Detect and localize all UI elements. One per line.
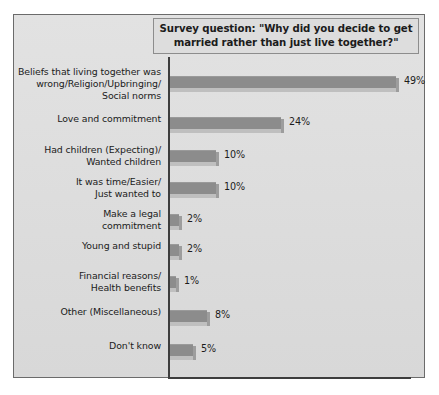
bar — [170, 76, 396, 93]
bar — [170, 244, 179, 261]
bar — [170, 310, 207, 327]
category-label: Had children (Expecting)/ Wanted childre… — [16, 144, 161, 168]
bar — [170, 117, 281, 134]
bar-value-label: 2% — [187, 243, 202, 254]
bar — [170, 150, 216, 167]
bar — [170, 344, 193, 361]
bar-shelf — [170, 88, 396, 92]
bar-body — [170, 117, 281, 129]
x-axis-line — [168, 377, 411, 379]
bar-end-cap — [216, 184, 219, 198]
bar-body — [170, 76, 396, 88]
bar-shelf — [170, 256, 179, 260]
bar-end-cap — [179, 216, 182, 230]
bar — [170, 276, 176, 293]
bar-shelf — [170, 162, 216, 166]
category-label: Other (Miscellaneous) — [16, 306, 161, 318]
bar-shelf — [170, 194, 216, 198]
bar-body — [170, 244, 179, 256]
bar-value-label: 24% — [289, 116, 310, 127]
category-label: Don't know — [16, 340, 161, 352]
category-label: Financial reasons/ Health benefits — [16, 270, 161, 294]
bar-end-cap — [207, 312, 210, 326]
chart-frame: Survey question: "Why did you decide to … — [13, 14, 425, 378]
bar-end-cap — [176, 278, 179, 292]
bar-value-label: 49% — [404, 75, 425, 86]
bar-body — [170, 150, 216, 162]
bar-shelf — [170, 356, 193, 360]
bar-value-label: 5% — [201, 343, 216, 354]
bar — [170, 214, 179, 231]
bar-end-cap — [216, 152, 219, 166]
bar-body — [170, 310, 207, 322]
bar-body — [170, 344, 193, 356]
category-label: Beliefs that living together was wrong/R… — [16, 66, 161, 102]
bar-end-cap — [179, 246, 182, 260]
bar-shelf — [170, 322, 207, 326]
bar-value-label: 10% — [224, 149, 245, 160]
bar — [170, 182, 216, 199]
bar-value-label: 8% — [215, 309, 230, 320]
category-label: Young and stupid — [16, 240, 161, 252]
bar-value-label: 1% — [184, 275, 199, 286]
category-label: It was time/Easier/ Just wanted to — [16, 176, 161, 200]
bar-end-cap — [281, 119, 284, 133]
category-label: Make a legal commitment — [16, 208, 161, 232]
bar-value-label: 2% — [187, 213, 202, 224]
bar-end-cap — [396, 78, 399, 92]
plot-area: Beliefs that living together was wrong/R… — [14, 54, 426, 379]
bar-body — [170, 182, 216, 194]
bar-value-label: 10% — [224, 181, 245, 192]
chart-title: Survey question: "Why did you decide to … — [160, 22, 413, 50]
bar-shelf — [170, 129, 281, 133]
bar-shelf — [170, 226, 179, 230]
chart-title-box: Survey question: "Why did you decide to … — [153, 18, 419, 54]
bar-body — [170, 214, 179, 226]
bar-end-cap — [193, 346, 196, 360]
category-label: Love and commitment — [16, 113, 161, 125]
